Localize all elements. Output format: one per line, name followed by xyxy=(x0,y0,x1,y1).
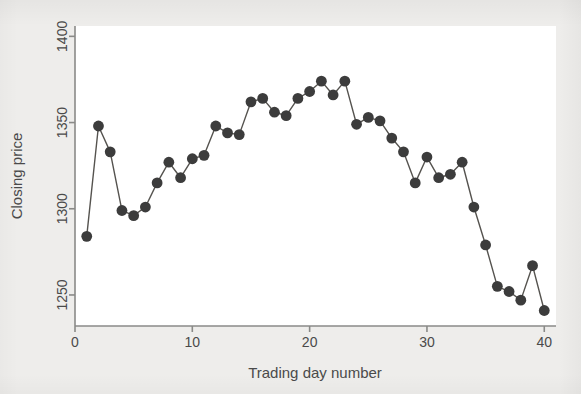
data-point-marker xyxy=(199,150,210,161)
y-axis-ticks: 1250130013501400 xyxy=(54,21,75,311)
data-point-marker xyxy=(163,157,174,168)
data-point-marker xyxy=(246,96,257,107)
data-point-marker xyxy=(468,202,479,213)
data-point-marker xyxy=(175,172,186,183)
data-point-marker xyxy=(93,121,104,132)
y-tick-label: 1400 xyxy=(54,21,70,52)
data-point-marker xyxy=(410,178,421,189)
data-point-marker xyxy=(117,205,128,216)
data-point-marker xyxy=(152,178,163,189)
y-tick-label: 1250 xyxy=(54,279,70,310)
data-point-marker xyxy=(269,107,280,118)
data-point-marker xyxy=(422,152,433,163)
data-point-marker xyxy=(128,210,139,221)
data-point-marker xyxy=(515,295,526,306)
data-point-marker xyxy=(504,286,515,297)
data-point-marker xyxy=(375,115,386,126)
line-chart: 1250130013501400 010203040 Trading day n… xyxy=(0,0,581,394)
data-point-marker xyxy=(527,260,538,271)
data-point-marker xyxy=(140,202,151,213)
data-point-marker xyxy=(257,93,268,104)
data-point-marker xyxy=(433,172,444,183)
data-point-marker xyxy=(234,129,245,140)
data-point-marker xyxy=(445,169,456,180)
x-tick-label: 30 xyxy=(419,334,435,350)
chart-figure: 1250130013501400 010203040 Trading day n… xyxy=(0,0,581,394)
y-axis-title: Closing price xyxy=(8,133,25,220)
data-point-marker xyxy=(539,305,550,316)
data-point-marker xyxy=(363,112,374,123)
data-point-marker xyxy=(81,231,92,242)
data-point-marker xyxy=(293,93,304,104)
data-point-marker xyxy=(187,153,198,164)
x-axis-ticks: 010203040 xyxy=(71,326,552,350)
x-tick-label: 40 xyxy=(536,334,552,350)
x-tick-label: 20 xyxy=(302,334,318,350)
x-tick-label: 0 xyxy=(71,334,79,350)
data-point-marker xyxy=(480,240,491,251)
data-point-marker xyxy=(105,146,116,157)
data-point-marker xyxy=(339,76,350,87)
data-point-marker xyxy=(398,146,409,157)
y-tick-label: 1350 xyxy=(54,107,70,138)
data-point-marker xyxy=(492,281,503,292)
x-tick-label: 10 xyxy=(185,334,201,350)
data-point-marker xyxy=(222,127,233,138)
data-point-marker xyxy=(316,76,327,87)
data-point-marker xyxy=(210,121,221,132)
data-point-marker xyxy=(386,133,397,144)
data-point-marker xyxy=(281,110,292,121)
data-point-marker xyxy=(457,157,468,168)
x-axis-title: Trading day number xyxy=(248,364,382,381)
data-point-marker xyxy=(328,90,339,101)
data-point-marker xyxy=(304,86,315,97)
y-tick-label: 1300 xyxy=(54,193,70,224)
plot-area xyxy=(75,26,556,326)
data-point-marker xyxy=(351,119,362,130)
